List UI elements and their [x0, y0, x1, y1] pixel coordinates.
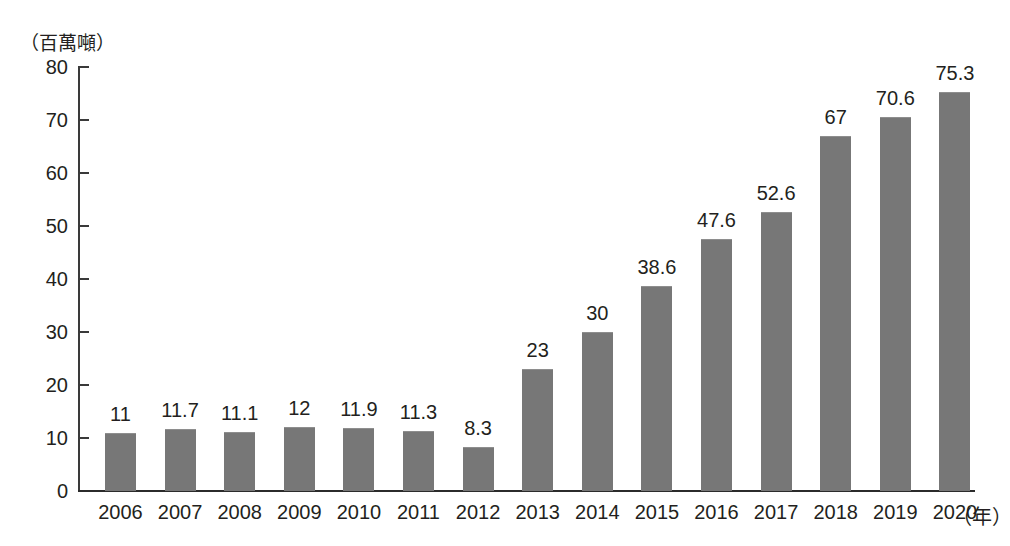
bar	[701, 239, 732, 491]
bar	[582, 332, 613, 491]
y-axis-tick-label: 10	[8, 427, 68, 450]
y-axis-tick-label: 70	[8, 109, 68, 132]
bar-value-label: 52.6	[741, 182, 811, 205]
bar	[641, 286, 672, 491]
bar	[224, 432, 255, 491]
y-axis-tick-label: 0	[8, 480, 68, 503]
y-axis-unit-label: （百萬噸）	[20, 28, 115, 55]
bar	[343, 428, 374, 491]
y-axis-tick-label: 30	[8, 321, 68, 344]
bar	[761, 212, 792, 491]
y-axis-tick-label: 40	[8, 268, 68, 291]
bar	[403, 431, 434, 491]
bar	[522, 369, 553, 491]
bar-value-label: 70.6	[860, 87, 930, 110]
bars-group	[78, 67, 975, 491]
bar-value-label: 23	[503, 339, 573, 362]
bar	[165, 429, 196, 491]
bar-value-label: 47.6	[682, 209, 752, 232]
bar-value-label: 30	[562, 302, 632, 325]
bar-value-label: 75.3	[920, 62, 990, 85]
bar	[284, 427, 315, 491]
y-axis-tick-label: 60	[8, 162, 68, 185]
y-axis-tick-label: 80	[8, 56, 68, 79]
x-axis-unit-label: （年）	[952, 501, 1010, 530]
bar-chart: （百萬噸） 01020304050607080 1111.711.11211.9…	[0, 0, 1010, 546]
y-axis-tick-label: 20	[8, 374, 68, 397]
bar	[463, 447, 494, 491]
y-axis-tick-label: 50	[8, 215, 68, 238]
bar-value-label: 38.6	[622, 256, 692, 279]
bar	[939, 92, 970, 491]
bar-value-label: 8.3	[443, 417, 513, 440]
bar	[880, 117, 911, 491]
bar	[820, 136, 851, 491]
bar	[105, 433, 136, 491]
